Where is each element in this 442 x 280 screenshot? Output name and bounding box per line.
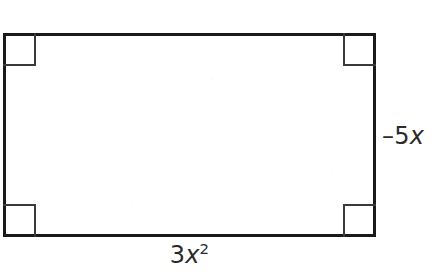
right-label-variable: x bbox=[410, 122, 424, 150]
rectangle-shape bbox=[3, 33, 376, 237]
top-left-right-angle-icon bbox=[3, 33, 36, 66]
bottom-left-right-angle-icon bbox=[3, 204, 36, 237]
right-side-dimension-label: –5x bbox=[382, 124, 424, 148]
bottom-label-coefficient: 3 bbox=[170, 241, 185, 269]
right-label-coefficient: –5 bbox=[382, 122, 410, 150]
bottom-label-variable: x bbox=[185, 241, 199, 269]
bottom-label-exponent: 2 bbox=[200, 240, 210, 258]
bottom-side-dimension-label: 3x2 bbox=[0, 243, 379, 267]
geometry-figure-canvas: –5x 3x2 bbox=[0, 0, 442, 280]
top-right-right-angle-icon bbox=[343, 33, 376, 66]
bottom-right-right-angle-icon bbox=[343, 204, 376, 237]
